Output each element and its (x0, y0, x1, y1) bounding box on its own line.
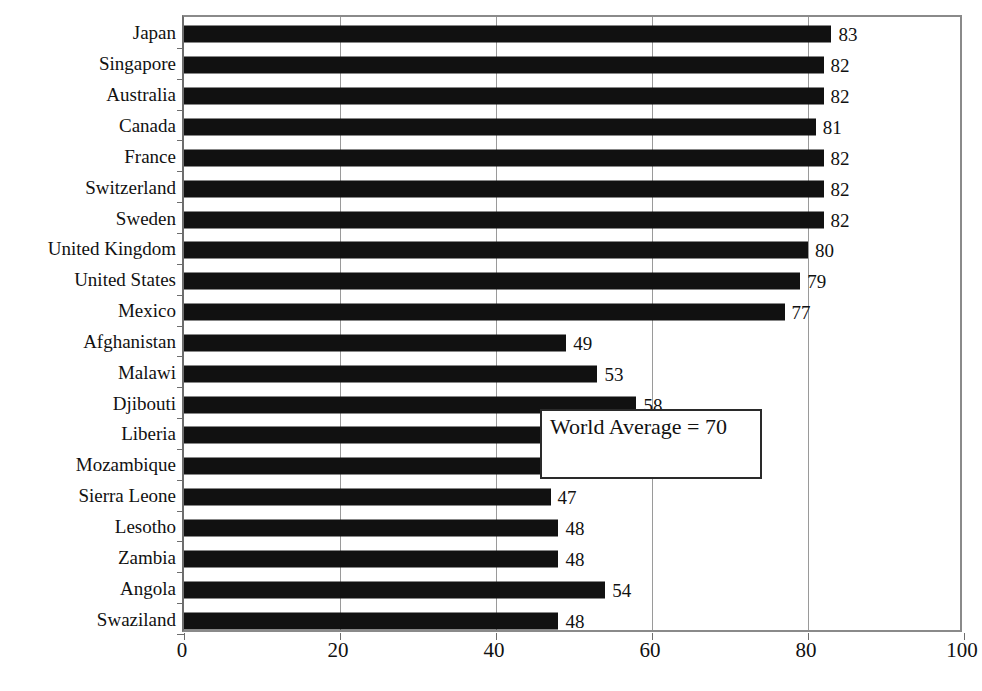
bar (184, 88, 824, 105)
bar-value-label: 82 (831, 87, 850, 106)
bar (184, 304, 785, 321)
bar (184, 458, 590, 475)
y-tick-mark (177, 572, 184, 573)
y-tick-mark (177, 356, 184, 357)
category-label: Mozambique (76, 455, 176, 474)
y-tick-mark (177, 511, 184, 512)
y-tick-mark (177, 171, 184, 172)
bar-value-label: 48 (565, 519, 584, 538)
bar-value-label: 54 (612, 580, 631, 599)
bar (184, 334, 566, 351)
x-tick-label: 20 (328, 640, 349, 661)
gridline (496, 17, 497, 630)
y-tick-mark (177, 326, 184, 327)
bar (184, 57, 824, 74)
y-tick-mark (177, 110, 184, 111)
bar-value-label: 53 (604, 364, 623, 383)
x-tick-label: 80 (796, 640, 817, 661)
y-tick-mark (177, 418, 184, 419)
x-axis-tick-labels: 020406080100 (0, 640, 982, 680)
bar (184, 520, 558, 537)
category-label: Switzerland (85, 177, 176, 196)
category-label: United States (74, 270, 176, 289)
x-tick-label: 40 (484, 640, 505, 661)
y-tick-mark (177, 233, 184, 234)
y-tick-mark (177, 634, 184, 635)
category-label: Singapore (99, 54, 176, 73)
category-axis: JapanSingaporeAustraliaCanadaFranceSwitz… (0, 0, 176, 691)
x-tick-label: 0 (177, 640, 188, 661)
x-tick-label: 100 (946, 640, 978, 661)
category-label: United Kingdom (48, 239, 176, 258)
bar (184, 581, 605, 598)
y-tick-mark (177, 140, 184, 141)
plot-area: 8382828182828280797749535856524748485448 (182, 15, 962, 632)
x-tick-label: 60 (640, 640, 661, 661)
y-tick-mark (177, 480, 184, 481)
bar (184, 180, 824, 197)
y-tick-mark (177, 79, 184, 80)
gridline (340, 17, 341, 630)
gridline (808, 17, 809, 630)
category-label: Canada (119, 115, 176, 134)
bar (184, 365, 597, 382)
bar (184, 149, 824, 166)
bar-value-label: 47 (558, 488, 577, 507)
category-label: France (124, 146, 176, 165)
gridline (652, 17, 653, 630)
bar-value-label: 82 (831, 179, 850, 198)
category-label: Angola (120, 578, 176, 597)
y-tick-mark (177, 264, 184, 265)
category-label: Zambia (118, 547, 176, 566)
bar-value-label: 80 (815, 241, 834, 260)
y-tick-mark (177, 202, 184, 203)
bar-value-label: 79 (807, 272, 826, 291)
category-label: Mexico (118, 301, 176, 320)
bar (184, 612, 558, 629)
bar-value-label: 82 (831, 210, 850, 229)
bar (184, 273, 800, 290)
bar-value-label: 77 (792, 303, 811, 322)
bar-value-label: 49 (573, 333, 592, 352)
bar (184, 26, 831, 43)
category-label: Lesotho (115, 517, 176, 536)
bar-value-label: 48 (565, 611, 584, 630)
bar (184, 489, 551, 506)
bar-chart: JapanSingaporeAustraliaCanadaFranceSwitz… (0, 0, 982, 691)
y-tick-mark (177, 603, 184, 604)
y-tick-mark (177, 48, 184, 49)
bar (184, 550, 558, 567)
category-label: Sweden (116, 208, 176, 227)
y-tick-mark (177, 295, 184, 296)
bar (184, 118, 816, 135)
category-label: Australia (106, 85, 176, 104)
bar-value-label: 81 (823, 117, 842, 136)
category-label: Japan (133, 23, 176, 42)
category-label: Swaziland (97, 609, 176, 628)
bar (184, 242, 808, 259)
bar-value-label: 48 (565, 549, 584, 568)
category-label: Liberia (121, 424, 176, 443)
bar-value-label: 83 (838, 25, 857, 44)
world-average-label: World Average = 70 (550, 415, 727, 439)
bar-value-label: 82 (831, 56, 850, 75)
bar-value-label: 82 (831, 148, 850, 167)
y-tick-mark (177, 387, 184, 388)
category-label: Afghanistan (83, 331, 176, 350)
world-average-callout: World Average = 70 (540, 409, 762, 479)
category-label: Malawi (118, 362, 176, 381)
bar (184, 211, 824, 228)
category-label: Sierra Leone (78, 486, 176, 505)
y-tick-mark (177, 541, 184, 542)
category-label: Djibouti (113, 393, 176, 412)
y-tick-mark (177, 449, 184, 450)
